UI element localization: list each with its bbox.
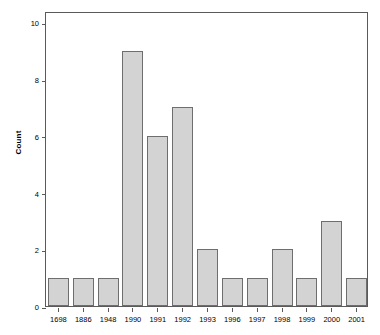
- x-tick-mark: [257, 308, 258, 312]
- bar-1999: [296, 278, 317, 306]
- x-tick-mark: [108, 308, 109, 312]
- x-tick-mark: [207, 308, 208, 312]
- x-tick-mark: [83, 308, 84, 312]
- bar-1996: [222, 278, 243, 306]
- x-tick-mark: [182, 308, 183, 312]
- bars-layer: [46, 13, 367, 306]
- y-tick-label: 4: [35, 190, 39, 199]
- x-tick-mark: [58, 308, 59, 312]
- bar-2000: [321, 221, 342, 306]
- y-tick-mark: [42, 137, 46, 138]
- bar-1991: [147, 136, 168, 306]
- y-tick-label: 2: [35, 246, 39, 255]
- bar-1992: [172, 107, 193, 306]
- y-tick-mark: [42, 308, 46, 309]
- bar-1993: [197, 249, 218, 306]
- bar-2001: [346, 278, 367, 306]
- x-tick-mark: [157, 308, 158, 312]
- x-tick-mark: [356, 308, 357, 312]
- y-tick-mark: [42, 251, 46, 252]
- x-tick-mark: [132, 308, 133, 312]
- y-tick-mark: [42, 194, 46, 195]
- x-tick-mark: [282, 308, 283, 312]
- bar-1698: [48, 278, 69, 306]
- plot-area: 0246810 16981886194819901991199219931996…: [45, 12, 368, 307]
- bar-1886: [73, 278, 94, 306]
- bar-1997: [247, 278, 268, 306]
- y-tick-label: 8: [35, 76, 39, 85]
- x-tick-mark: [331, 308, 332, 312]
- y-tick-mark: [42, 24, 46, 25]
- y-tick-label: 6: [35, 133, 39, 142]
- y-tick-label: 0: [35, 303, 39, 312]
- bar-1948: [98, 278, 119, 306]
- bar-1990: [122, 51, 143, 306]
- y-tick-label: 10: [31, 19, 39, 28]
- bar-chart: Count 0246810 16981886194819901991199219…: [0, 0, 380, 335]
- bar-1998: [272, 249, 293, 306]
- x-tick-mark: [306, 308, 307, 312]
- x-tick-mark: [232, 308, 233, 312]
- y-axis-title: Count: [14, 113, 23, 173]
- x-tick-label: 2001: [337, 315, 377, 324]
- y-tick-mark: [42, 81, 46, 82]
